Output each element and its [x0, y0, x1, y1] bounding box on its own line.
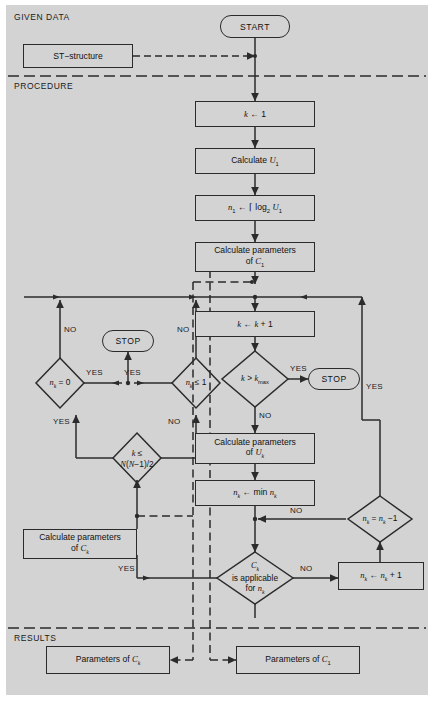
node-nk-plus-one[interactable]: nk ← nk + 1 — [338, 562, 424, 590]
shape-klen-diamond — [113, 433, 161, 483]
edge-label-klen-yes: YES — [53, 417, 70, 426]
edge-label-kmax-yes: YES — [290, 364, 307, 373]
shape-nk0-diamond — [36, 358, 84, 408]
section-label-given-data: GIVEN DATA — [14, 12, 70, 22]
node-nk-min[interactable]: nk ← min nk — [195, 480, 315, 506]
node-n1-log[interactable]: n1 ← ⌈ log2 U1 — [195, 195, 315, 221]
edge-label-nk0-no: NO — [64, 325, 77, 334]
node-stop-right[interactable]: STOP — [308, 368, 360, 390]
edge-label-nk0-yes: YES — [86, 368, 103, 377]
flowchart-diagram: GIVEN DATA PROCEDURE RESULTS START ST−st… — [0, 0, 434, 703]
edge-label-right-feedback-yes: YES — [366, 382, 383, 391]
node-calculate-params-c1[interactable]: Calculate parametersof C1 — [195, 242, 315, 272]
shape-nkminus-diamond — [348, 496, 412, 542]
node-result-params-ck[interactable]: Parameters of Ck — [46, 646, 170, 674]
node-calculate-params-ck[interactable]: Calculate parametersof Ck — [23, 529, 137, 559]
shape-ckapp-diamond — [217, 552, 293, 604]
node-k-increment[interactable]: k ← k + 1 — [195, 311, 315, 337]
edge-label-klen-no: NO — [168, 417, 181, 426]
node-k-init[interactable]: k ← 1 — [195, 101, 315, 127]
node-calculate-params-uk[interactable]: Calculate parametersof Uk — [195, 433, 315, 464]
node-stop-left[interactable]: STOP — [102, 330, 154, 352]
section-label-procedure: PROCEDURE — [14, 81, 73, 91]
shape-nk1-diamond — [172, 358, 220, 408]
node-st-structure[interactable]: ST−structure — [23, 44, 133, 68]
edge-label-kmax-no: NO — [259, 411, 272, 420]
shape-kmax-diamond — [222, 351, 288, 407]
edge-label-nk1-yes: YES — [124, 368, 141, 377]
edge-label-ckapp-no: NO — [300, 564, 313, 573]
node-calculate-u1[interactable]: Calculate U1 — [195, 148, 315, 174]
node-start[interactable]: START — [220, 15, 290, 38]
node-result-params-c1[interactable]: Parameters of C1 — [236, 646, 360, 674]
section-label-results: RESULTS — [14, 633, 56, 643]
edge-label-nkminus-no: NO — [290, 506, 303, 515]
edge-label-nk1-no: NO — [177, 325, 190, 334]
edge-label-ckapp-yes: YES — [118, 564, 135, 573]
